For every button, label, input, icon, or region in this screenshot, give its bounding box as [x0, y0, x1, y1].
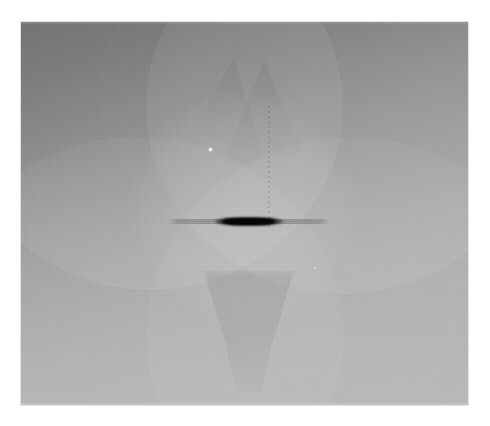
- plate-top-highlight: [21, 22, 468, 24]
- central-dark-horizontal-bar: [168, 216, 330, 227]
- plate-bottom-highlight: [21, 403, 468, 405]
- bright-speck-secondary: [314, 267, 316, 269]
- vertical-dotted-streak: [268, 106, 270, 229]
- image-canvas: [0, 0, 490, 426]
- grayscale-interference-plate: [21, 22, 468, 405]
- lower-center-funnel: [200, 271, 298, 394]
- bar-opaque-center: [222, 218, 276, 224]
